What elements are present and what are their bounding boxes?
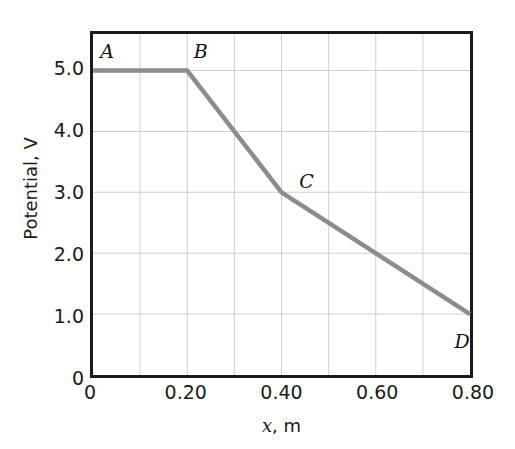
point-label-b: B	[194, 42, 208, 61]
point-label-a: A	[100, 42, 114, 61]
x-axis-tick-labels: 00.200.400.600.80	[90, 383, 473, 413]
data-series-line	[93, 34, 470, 375]
x-tick-label: 0.80	[452, 383, 494, 402]
x-tick-label: 0	[84, 383, 96, 402]
x-tick-label: 0.60	[356, 383, 398, 402]
x-axis-variable: x	[262, 415, 272, 436]
plot-area: ABCD	[90, 31, 473, 378]
point-label-d: D	[454, 332, 469, 351]
figure: 5.0 4.0 3.0 2.0 1.0 0 Potential, V ABCD …	[0, 0, 515, 449]
point-label-c: C	[299, 172, 314, 191]
y-axis-title: Potential, V	[20, 99, 41, 279]
y-tick-label: 0	[24, 369, 84, 388]
y-tick-label: 1.0	[24, 307, 84, 326]
x-axis-unit: , m	[272, 415, 301, 436]
x-axis-title: x, m	[90, 415, 473, 436]
y-tick-label: 5.0	[24, 59, 84, 78]
x-tick-label: 0.20	[165, 383, 207, 402]
x-tick-label: 0.40	[260, 383, 302, 402]
